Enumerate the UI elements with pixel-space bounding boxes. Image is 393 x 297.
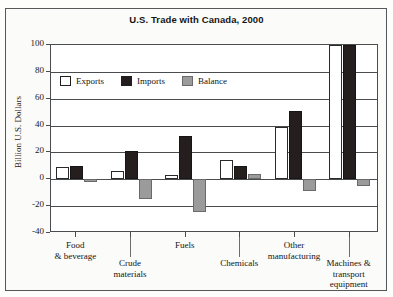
y-tick-label: 80 [0, 65, 44, 75]
bar-imports-5 [343, 45, 356, 179]
bar-exports-1 [111, 171, 124, 179]
bar-imports-3 [234, 166, 247, 179]
legend-swatch-exports [60, 76, 71, 86]
x-tick-mark [185, 232, 186, 237]
bar-balance-4 [303, 179, 316, 191]
x-label-line: equipment [330, 279, 368, 289]
gridline [51, 99, 377, 100]
gridline [51, 179, 377, 180]
x-category-label: Fuels [140, 240, 230, 251]
y-tick-mark [46, 205, 50, 206]
y-tick-label: -20 [0, 199, 44, 209]
chart-legend: Exports Imports Balance [60, 76, 227, 86]
y-tick-mark [46, 125, 50, 126]
chart-title: U.S. Trade with Canada, 2000 [0, 14, 393, 25]
bar-imports-2 [179, 136, 192, 179]
bar-balance-1 [139, 179, 152, 199]
legend-label-balance: Balance [198, 76, 227, 86]
y-tick-label: 40 [0, 119, 44, 129]
y-tick-mark [46, 71, 50, 72]
gridline [51, 72, 377, 73]
chart-figure: U.S. Trade with Canada, 2000 Billion U.S… [0, 0, 393, 297]
legend-label-exports: Exports [76, 76, 104, 86]
bar-imports-1 [125, 151, 138, 179]
legend-label-imports: Imports [137, 76, 165, 86]
legend-item-imports: Imports [121, 76, 165, 86]
y-tick-label: 100 [0, 38, 44, 48]
gridline [51, 152, 377, 153]
x-label-stem [130, 237, 131, 257]
y-tick-label: 60 [0, 92, 44, 102]
y-tick-mark [46, 178, 50, 179]
bar-exports-2 [165, 175, 178, 179]
bar-exports-4 [275, 127, 288, 179]
legend-swatch-imports [121, 76, 132, 86]
x-label-line: Other [284, 240, 305, 250]
y-tick-label: -40 [0, 226, 44, 236]
gridline [51, 206, 377, 207]
bar-balance-3 [248, 174, 261, 179]
x-category-label: Machines &transportequipment [304, 258, 393, 290]
legend-item-balance: Balance [182, 76, 227, 86]
legend-swatch-balance [182, 76, 193, 86]
bar-balance-2 [193, 179, 206, 211]
gridline [51, 126, 377, 127]
y-tick-mark [46, 151, 50, 152]
y-tick-mark [46, 44, 50, 45]
y-tick-mark [46, 232, 50, 233]
x-label-line: materials [114, 269, 147, 279]
y-tick-mark [46, 98, 50, 99]
y-tick-label: 20 [0, 145, 44, 155]
bar-exports-0 [56, 167, 69, 179]
x-tick-mark [75, 232, 76, 237]
x-label-stem [239, 237, 240, 257]
bar-imports-0 [70, 166, 83, 179]
x-label-stem [349, 237, 350, 257]
bar-imports-4 [289, 111, 302, 179]
x-label-line: Fuels [175, 240, 195, 250]
bar-balance-5 [357, 179, 370, 186]
x-label-line: Crude [119, 258, 141, 268]
x-category-label: Crudematerials [85, 258, 175, 279]
y-tick-label: 0 [0, 172, 44, 182]
bar-exports-3 [220, 160, 233, 179]
x-label-line: Machines & [327, 258, 371, 268]
legend-item-exports: Exports [60, 76, 104, 86]
bar-exports-5 [329, 45, 342, 179]
x-tick-mark [294, 232, 295, 237]
plot-area [50, 44, 378, 232]
x-label-line: Food [66, 240, 85, 250]
bar-balance-0 [84, 179, 97, 182]
x-label-line: transport [333, 269, 365, 279]
